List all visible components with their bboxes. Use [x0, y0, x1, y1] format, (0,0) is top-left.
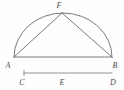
vertex-label-d: D	[109, 78, 116, 87]
vertex-label-b: B	[113, 61, 118, 70]
vertex-label-a: A	[5, 61, 11, 70]
vertex-label-f: F	[56, 1, 62, 10]
vertex-label-c: C	[19, 78, 25, 87]
chord-segment-af	[14, 13, 62, 57]
geometry-figure: A B C D E F	[0, 0, 124, 90]
geometry-figure-canvas: A B C D E F	[0, 0, 124, 90]
vertex-label-e: E	[59, 78, 65, 87]
semicircle-arc	[14, 13, 112, 57]
chord-segment-bf	[62, 13, 112, 57]
